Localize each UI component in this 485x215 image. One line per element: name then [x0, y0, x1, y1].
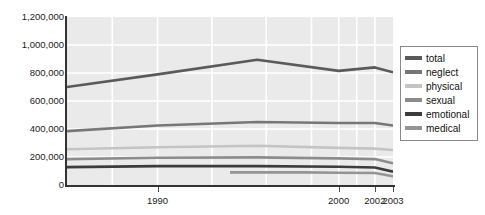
y-axis-tick-label: 1,200,000 — [2, 12, 64, 22]
x-axis-tick-mark — [339, 187, 340, 192]
legend-swatch-icon — [405, 112, 422, 116]
line-chart: 1,200,0001,000,000800,000600,000400,0002… — [0, 0, 485, 215]
y-axis-tick-label: 200,000 — [2, 152, 64, 162]
x-axis-tick-mark — [375, 187, 376, 192]
legend-swatch-icon — [405, 98, 422, 102]
x-axis-tick-mark — [158, 187, 159, 192]
legend-item-label: sexual — [426, 95, 455, 106]
y-axis-tick-label: 600,000 — [2, 96, 64, 106]
legend-item-neglect[interactable]: neglect — [405, 65, 473, 79]
y-axis-tick-label: 400,000 — [2, 124, 64, 134]
y-axis-spine — [65, 16, 67, 186]
x-axis-tick-mark — [393, 187, 394, 192]
legend-item-medical[interactable]: medical — [405, 121, 473, 135]
legend-swatch-icon — [405, 70, 422, 74]
y-axis-tick-labels: 1,200,0001,000,000800,000600,000400,0002… — [0, 0, 64, 215]
series-line-sexual — [67, 157, 393, 163]
x-axis-tick-label: 2000 — [328, 195, 349, 206]
legend-item-physical[interactable]: physical — [405, 79, 473, 93]
y-axis-tick-label: 0 — [2, 180, 64, 190]
legend-item-sexual[interactable]: sexual — [405, 93, 473, 107]
legend-item-label: emotional — [426, 109, 469, 120]
legend-swatch-icon — [405, 56, 422, 60]
legend-item-label: neglect — [426, 67, 458, 78]
series-line-physical — [67, 146, 393, 150]
legend-swatch-icon — [405, 84, 422, 88]
y-axis-tick-label: 800,000 — [2, 68, 64, 78]
series-line-emotional — [67, 166, 393, 172]
legend-item-label: physical — [426, 81, 462, 92]
chart-legend: totalneglectphysicalsexualemotionalmedic… — [400, 46, 478, 141]
legend-item-label: medical — [426, 123, 460, 134]
plot-area — [67, 17, 393, 185]
legend-item-label: total — [426, 53, 445, 64]
legend-item-emotional[interactable]: emotional — [405, 107, 473, 121]
x-axis-tick-label: 1990 — [147, 195, 168, 206]
x-axis-tick-labels: 1990200020022003 — [0, 190, 485, 210]
plot-lines — [67, 17, 393, 185]
y-axis-tick-label: 1,000,000 — [2, 40, 64, 50]
x-axis-spine — [65, 185, 395, 187]
x-axis-tick-label: 2003 — [382, 195, 403, 206]
legend-swatch-icon — [405, 126, 422, 130]
legend-item-total[interactable]: total — [405, 51, 473, 65]
